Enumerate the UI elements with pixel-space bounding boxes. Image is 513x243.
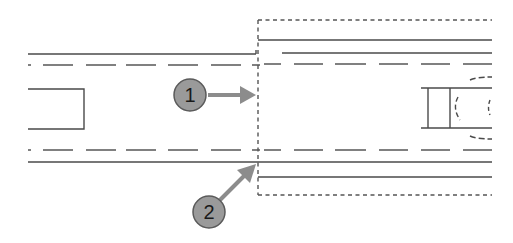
arrow-2-shaft: [220, 174, 246, 200]
road-diagram: 1 2: [0, 0, 513, 243]
callout-2: 2: [193, 164, 256, 228]
left-rectangle: [28, 89, 84, 129]
callout-1-label: 1: [184, 84, 195, 106]
left-road-segment: [28, 50, 492, 162]
dashed-boundary-box: [258, 20, 492, 195]
right-road-segment: [258, 40, 492, 177]
callout-2-label: 2: [203, 201, 214, 223]
arrow-1-head: [240, 86, 256, 104]
callout-1: 1: [174, 79, 256, 111]
right-curb-shape: [421, 77, 492, 139]
